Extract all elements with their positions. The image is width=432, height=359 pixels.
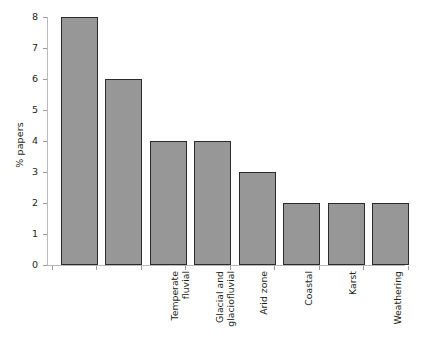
y-axis-label: % papers	[14, 5, 28, 285]
bar	[283, 203, 320, 265]
y-tick-label: 4	[32, 134, 38, 148]
y-tick-label: 1	[32, 227, 38, 241]
y-tick-3: 3	[43, 172, 47, 173]
bar	[105, 79, 142, 265]
x-tick	[185, 266, 186, 270]
bar	[239, 172, 276, 265]
y-tick-label: 6	[32, 72, 38, 86]
bar	[150, 141, 187, 265]
y-tick-label: 3	[32, 165, 38, 179]
x-tick	[141, 266, 142, 270]
y-tick-label: 7	[32, 41, 38, 55]
x-tick	[363, 266, 364, 270]
y-tick-label: 8	[32, 10, 38, 24]
bar-chart: % papers 012345678 Temperate fluvialGlac…	[0, 0, 432, 359]
x-tick	[408, 266, 409, 270]
bar	[328, 203, 365, 265]
category-label: Coastal	[304, 271, 317, 357]
y-tick-7: 7	[43, 48, 47, 49]
y-tick-8: 8	[43, 17, 47, 18]
y-tick-2: 2	[43, 203, 47, 204]
x-tick	[96, 266, 97, 270]
bar	[372, 203, 409, 265]
y-tick-0: 0	[43, 265, 47, 266]
bar	[194, 141, 231, 265]
category-label: Karst	[348, 271, 361, 357]
bar	[61, 17, 98, 265]
y-tick-4: 4	[43, 141, 47, 142]
y-tick-label: 0	[32, 258, 38, 272]
x-tick	[274, 266, 275, 270]
category-label: Glacial and glaciofluvial	[215, 271, 228, 357]
x-tick	[52, 266, 53, 270]
plot-area: 012345678	[47, 17, 405, 265]
y-tick-label: 2	[32, 196, 38, 210]
x-tick	[230, 266, 231, 270]
x-axis-line	[47, 265, 405, 266]
category-label: Weathering	[393, 271, 406, 357]
x-tick	[319, 266, 320, 270]
category-label: Temperate fluvial	[170, 271, 183, 357]
y-tick-5: 5	[43, 110, 47, 111]
y-axis-line	[47, 17, 48, 265]
category-label: Arid zone	[259, 271, 272, 357]
y-tick-label: 5	[32, 103, 38, 117]
y-tick-1: 1	[43, 234, 47, 235]
y-tick-6: 6	[43, 79, 47, 80]
